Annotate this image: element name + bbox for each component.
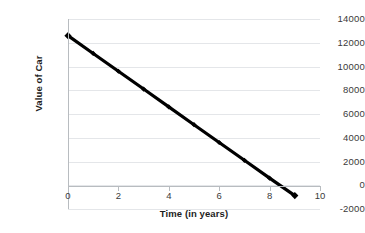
series-line bbox=[68, 36, 295, 196]
x-tick-label: 8 bbox=[258, 191, 282, 201]
x-tick-label: 10 bbox=[308, 191, 332, 201]
line-series bbox=[68, 19, 320, 209]
x-axis-title: Time (in years) bbox=[68, 208, 320, 219]
x-axis-line bbox=[68, 186, 320, 187]
chart-container: 14000120001000080006000400020000-2000 Va… bbox=[0, 0, 365, 233]
plot-area bbox=[68, 19, 320, 209]
x-tick-label: 4 bbox=[157, 191, 181, 201]
x-tick-label: 0 bbox=[56, 191, 80, 201]
y-axis-line bbox=[68, 19, 69, 209]
y-axis-title: Value of Car bbox=[33, 24, 44, 144]
x-tick-label: 6 bbox=[207, 191, 231, 201]
x-tick-label: 2 bbox=[106, 191, 130, 201]
